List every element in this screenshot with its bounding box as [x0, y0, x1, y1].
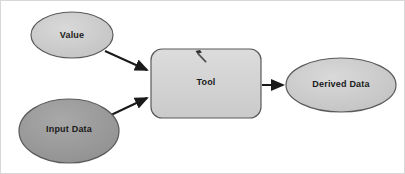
connector-input-data-to-tool[interactable]	[111, 98, 147, 115]
connector-value-to-tool[interactable]	[105, 51, 147, 70]
node-derived-data[interactable]	[286, 58, 396, 112]
model-diagram-svg	[1, 1, 405, 174]
model-builder-canvas[interactable]: Value Input Data Tool Derived Data	[0, 0, 405, 174]
node-value[interactable]	[31, 12, 113, 58]
node-tool[interactable]	[151, 49, 261, 118]
node-input-data[interactable]	[19, 99, 119, 163]
